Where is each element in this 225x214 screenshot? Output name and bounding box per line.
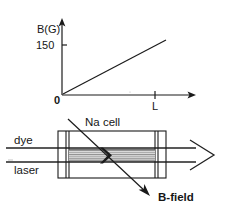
laser-label: laser [14,164,39,176]
x-tick-label-L: L [152,100,158,112]
dye-label: dye [14,134,33,146]
na-cell-label: Na cell [85,116,120,128]
figure-canvas: B(G) 150 0 L [0,0,225,214]
beam-interaction-band [69,148,155,164]
band-fill [69,150,155,162]
origin-label: 0 [54,94,60,106]
physics-figure: B(G) 150 0 L [0,0,225,214]
y-tick-label-150: 150 [36,39,54,51]
b-field-label: B-field [158,191,194,203]
y-axis-label: B(G) [37,23,60,35]
scan-speck [129,91,130,92]
figure-background [0,0,225,214]
